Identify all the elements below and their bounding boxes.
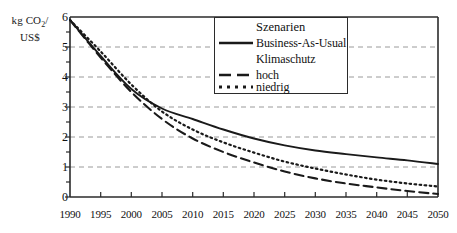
- x-tick-label-2010: 2010: [176, 208, 210, 220]
- legend-label-business-as-usual: Business-As-Usual: [256, 36, 346, 50]
- x-tick-label-2005: 2005: [145, 208, 179, 220]
- legend-sample-dotted: [219, 82, 253, 92]
- legend-title: Szenarien: [256, 20, 305, 34]
- x-tick-label-1995: 1995: [84, 208, 118, 220]
- co2-intensity-scenarios-chart: kg CO2/ US$ 6 5 4 3 2 1 0: [0, 0, 457, 233]
- x-tick-label-2035: 2035: [329, 208, 363, 220]
- x-tick-label-2030: 2030: [298, 208, 332, 220]
- legend-label-klimaschutz: Klimaschutz: [256, 52, 316, 66]
- x-tick-label-2040: 2040: [360, 208, 394, 220]
- x-tick-label-2045: 2045: [390, 208, 424, 220]
- legend: Szenarien Business-As-Usual Klimaschutz …: [214, 17, 348, 94]
- x-tick-label-1990: 1990: [53, 208, 87, 220]
- x-tick-label-2000: 2000: [114, 208, 148, 220]
- x-tick-label-2020: 2020: [237, 208, 271, 220]
- legend-label-niedrig: niedrig: [256, 80, 289, 94]
- x-tick-label-2025: 2025: [268, 208, 302, 220]
- legend-sample-dashed: [219, 70, 253, 80]
- legend-sample-solid: [219, 38, 253, 48]
- x-tick-label-2050: 2050: [421, 208, 455, 220]
- x-tick-label-2015: 2015: [206, 208, 240, 220]
